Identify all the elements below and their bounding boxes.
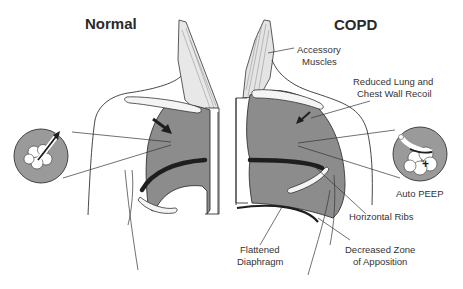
label-accessory-muscles: Accessory Muscles: [297, 44, 343, 67]
label-decreased-zone: Decreased Zone of Apposition: [345, 244, 418, 267]
copd-sternum: [236, 98, 248, 203]
copd-accessory-muscle: [243, 20, 274, 98]
normal-neck-muscle: [178, 20, 218, 112]
diaphragm-leader: [260, 207, 282, 245]
label-flattened-diaphragm: Flattened Diaphragm: [237, 244, 284, 267]
normal-alveoli-inset: [14, 129, 68, 183]
copd-diagram: Normal COPD: [0, 0, 463, 289]
normal-thorax: [14, 20, 219, 270]
label-horizontal-ribs: Horizontal Ribs: [349, 211, 414, 222]
title-normal: Normal: [85, 15, 137, 32]
label-auto-peep: Auto PEEP: [396, 188, 444, 199]
label-reduced-recoil: Reduced Lung and Chest Wall Recoil: [353, 76, 436, 99]
apposition-leader: [318, 218, 350, 240]
positive-pressure-icon: +: [422, 157, 429, 171]
title-copd: COPD: [334, 16, 378, 33]
copd-lung: [247, 90, 345, 218]
copd-thorax: +: [236, 20, 447, 275]
copd-alveoli-inset: +: [393, 127, 447, 181]
normal-abdomen-line: [125, 170, 138, 270]
